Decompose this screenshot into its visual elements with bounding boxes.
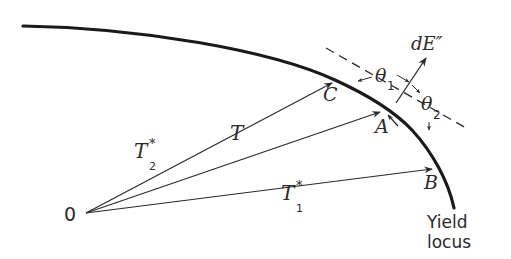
svg-text:locus: locus	[427, 232, 471, 252]
normal-de-label: dE″	[411, 33, 443, 54]
theta1-label: θ 1	[375, 64, 395, 93]
point-b-label: B	[423, 171, 438, 193]
svg-text:1: 1	[296, 202, 303, 215]
svg-text:T: T	[134, 139, 149, 163]
svg-text:T: T	[281, 181, 296, 205]
yield-locus-diagram: 0 T * 2 T T * 1 C A B dE″ θ 1 θ 2 Yield …	[0, 0, 511, 259]
svg-text:*: *	[296, 178, 303, 193]
svg-text:θ: θ	[421, 92, 433, 114]
svg-text:θ: θ	[375, 64, 387, 86]
label-t2-star: T * 2	[134, 136, 156, 173]
origin-label: 0	[64, 203, 76, 225]
svg-text:2: 2	[433, 108, 441, 122]
yield-locus-label: Yield locus	[426, 212, 471, 252]
point-a-label: A	[373, 115, 389, 137]
svg-text:1: 1	[387, 79, 395, 93]
vector-t1-star	[86, 169, 432, 213]
theta2-upper-tick-arrow	[412, 85, 420, 93]
vector-t2-star	[86, 83, 332, 213]
svg-text:*: *	[149, 136, 156, 151]
theta2-label: θ 2	[421, 92, 441, 122]
svg-text:Yield: Yield	[426, 212, 467, 232]
svg-text:2: 2	[149, 160, 156, 173]
label-t1-star: T * 1	[281, 178, 303, 215]
point-c-label: C	[323, 83, 338, 105]
theta1-right-tick-arrow	[397, 75, 409, 82]
theta1-left-tick-arrow	[358, 77, 372, 81]
label-t: T	[230, 121, 245, 145]
